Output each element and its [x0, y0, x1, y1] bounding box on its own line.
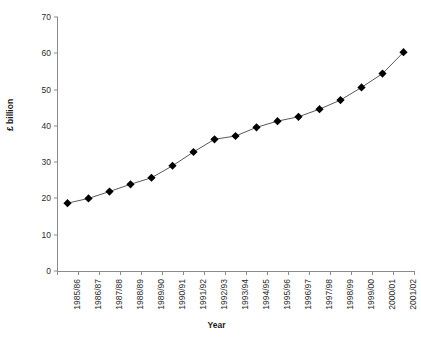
x-tick-mark — [204, 271, 205, 275]
x-tick-label: 2001/02 — [408, 279, 418, 310]
x-tick-label: 1990/91 — [177, 279, 187, 310]
x-tick-label: 1991/92 — [198, 279, 208, 310]
x-tick-label: 1997/98 — [324, 279, 334, 310]
x-tick-mark — [141, 271, 142, 275]
series-line — [68, 52, 404, 203]
x-tick-mark — [57, 271, 58, 275]
x-tick-mark — [162, 271, 163, 275]
x-tick-mark — [309, 271, 310, 275]
x-tick-label: 1994/95 — [261, 279, 271, 310]
data-point-marker — [252, 123, 260, 131]
data-series — [57, 17, 414, 271]
x-tick-mark — [246, 271, 247, 275]
y-tick-label: 70 — [42, 12, 51, 22]
x-tick-label: 1996/97 — [303, 279, 313, 310]
x-tick-label: 1988/89 — [135, 279, 145, 310]
data-point-marker — [105, 187, 113, 195]
x-tick-mark — [288, 271, 289, 275]
x-tick-mark — [99, 271, 100, 275]
x-tick-mark — [225, 271, 226, 275]
x-tick-label: 2000/01 — [387, 279, 397, 310]
data-point-marker — [294, 113, 302, 121]
x-tick-mark — [414, 271, 415, 275]
x-tick-label: 1986/87 — [93, 279, 103, 310]
x-tick-mark — [267, 271, 268, 275]
x-tick-mark — [372, 271, 373, 275]
x-axis-line — [57, 271, 414, 272]
data-point-marker — [336, 96, 344, 104]
data-point-marker — [84, 194, 92, 202]
x-tick-mark — [120, 271, 121, 275]
x-tick-mark — [330, 271, 331, 275]
x-tick-label: 1987/88 — [114, 279, 124, 310]
y-tick-label: 10 — [42, 230, 51, 240]
y-axis-title: £ billion — [5, 115, 15, 131]
data-point-marker — [315, 105, 323, 113]
x-axis-title: Year — [0, 320, 421, 330]
data-point-marker — [147, 174, 155, 182]
data-point-marker — [126, 180, 134, 188]
x-tick-label: 1985/86 — [72, 279, 82, 310]
chart-figure: £ billion 010203040506070 1985/861986/87… — [0, 0, 421, 339]
data-point-marker — [63, 199, 71, 207]
data-point-marker — [189, 148, 197, 156]
y-tick-label: 50 — [42, 85, 51, 95]
data-point-marker — [210, 135, 218, 143]
y-tick-label: 60 — [42, 48, 51, 58]
data-point-marker — [231, 132, 239, 140]
y-tick-label: 0 — [46, 266, 51, 276]
data-point-marker — [273, 117, 281, 125]
y-tick-label: 20 — [42, 193, 51, 203]
x-tick-mark — [393, 271, 394, 275]
x-tick-mark — [78, 271, 79, 275]
y-tick-label: 40 — [42, 121, 51, 131]
y-tick-label: 30 — [42, 157, 51, 167]
plot-area: 010203040506070 1985/861986/871987/88198… — [57, 17, 414, 271]
x-tick-label: 1998/99 — [345, 279, 355, 310]
x-tick-label: 1993/94 — [240, 279, 250, 310]
x-tick-label: 1995/96 — [282, 279, 292, 310]
data-point-marker — [168, 162, 176, 170]
x-tick-label: 1989/90 — [156, 279, 166, 310]
x-tick-mark — [183, 271, 184, 275]
x-tick-mark — [351, 271, 352, 275]
data-point-marker — [357, 83, 365, 91]
x-axis-title-text: Year — [208, 320, 226, 330]
x-tick-label: 1992/93 — [219, 279, 229, 310]
x-tick-label: 1999/00 — [366, 279, 376, 310]
